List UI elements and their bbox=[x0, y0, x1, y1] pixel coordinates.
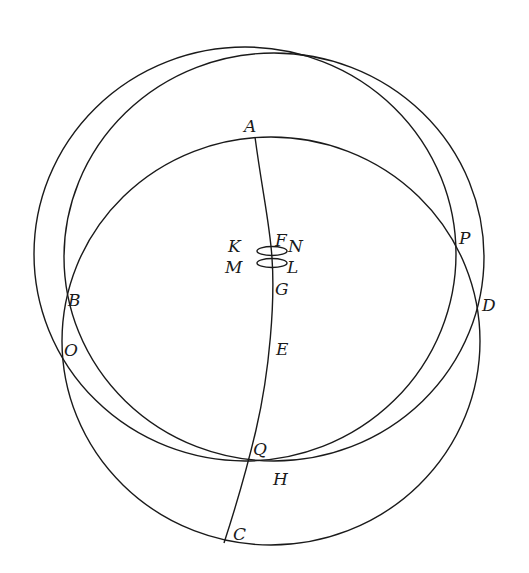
label-m: M bbox=[224, 257, 243, 277]
geometry-diagram: A K F N M L G P B D O E Q H C bbox=[0, 0, 529, 573]
outer-upper-circle bbox=[34, 47, 456, 461]
label-f: F bbox=[274, 230, 288, 250]
label-b: B bbox=[67, 290, 81, 310]
label-g: G bbox=[275, 279, 289, 299]
label-o: O bbox=[64, 340, 78, 360]
label-k: K bbox=[227, 236, 242, 256]
meridian-line bbox=[224, 137, 273, 543]
label-l: L bbox=[286, 257, 298, 277]
label-h: H bbox=[272, 469, 289, 489]
label-q: Q bbox=[253, 439, 267, 459]
label-c: C bbox=[233, 524, 246, 544]
label-d: D bbox=[481, 295, 496, 315]
lower-circle bbox=[62, 137, 480, 545]
label-n: N bbox=[287, 236, 304, 256]
inner-upper-circle bbox=[64, 53, 484, 461]
point-labels: A K F N M L G P B D O E Q H C bbox=[64, 116, 496, 544]
label-a: A bbox=[242, 116, 256, 136]
label-p: P bbox=[458, 228, 471, 248]
label-e: E bbox=[275, 339, 289, 359]
